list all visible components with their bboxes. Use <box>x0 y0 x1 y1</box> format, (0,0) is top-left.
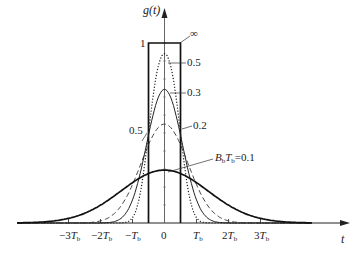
x-tick-label-m2: −2Tb <box>91 230 112 243</box>
label-bt-05: 0.5 <box>187 57 201 68</box>
x-tick-label-0: 0 <box>161 230 167 241</box>
label-bt-03: 0.3 <box>187 87 201 98</box>
label-bt-02: 0.2 <box>193 120 207 131</box>
x-tick-label-p1: Tb <box>193 230 203 243</box>
x-axis-arrow-icon <box>340 220 350 226</box>
x-tick-label-m3: −3Tb <box>59 230 80 243</box>
x-tick-label-p2: 2Tb <box>222 230 237 243</box>
x-tick-label-m1: −Tb <box>125 230 141 243</box>
y-axis-label: g(t) <box>143 4 160 16</box>
y-tick-label-half: 0.5 <box>129 125 143 136</box>
pulse-response-chart <box>0 0 364 253</box>
y-axis-arrow-icon <box>162 8 168 18</box>
label-bt-inf: ∞ <box>190 28 198 39</box>
annotation-leaders <box>142 36 213 172</box>
label-bt-01: BbTb=0.1 <box>215 152 255 165</box>
x-axis-label: t <box>341 233 344 245</box>
x-tick-label-p3: 3Tb <box>254 230 269 243</box>
y-tick-label-1: 1 <box>140 38 146 49</box>
